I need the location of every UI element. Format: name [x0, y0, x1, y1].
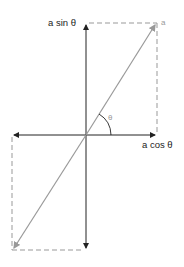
dashed-projection-top: [89, 23, 157, 133]
vector-a: [86, 25, 155, 135]
label-a-cos-theta: a cos θ: [142, 139, 173, 150]
label-a-sin-theta: a sin θ: [48, 17, 76, 28]
label-vector-a: a: [161, 18, 165, 27]
vector-negative-a: [14, 135, 86, 248]
label-theta: θ: [108, 113, 112, 122]
vector-diagram: [0, 0, 184, 267]
dashed-projection-bottom: [12, 137, 84, 250]
